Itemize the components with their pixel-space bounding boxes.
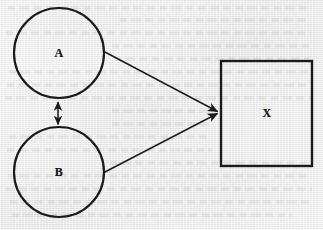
- diagram-canvas: A B X: [0, 0, 323, 230]
- node-a-label: A: [55, 46, 64, 61]
- edge-a-to-x-arrow[interactable]: [103, 51, 218, 112]
- node-x-label: X: [263, 106, 272, 121]
- path-diagram: [0, 0, 323, 230]
- edge-b-to-x-arrow[interactable]: [103, 114, 218, 174]
- node-b-label: B: [55, 165, 63, 180]
